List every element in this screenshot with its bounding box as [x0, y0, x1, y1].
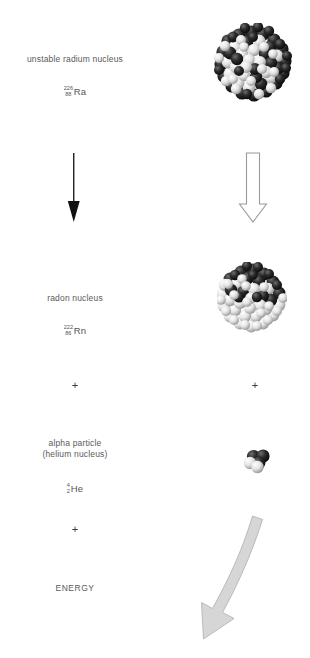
alpha-particle-label-line1: alpha particle [0, 438, 150, 449]
plus-sign-left-2: + [0, 524, 150, 535]
radon-element-symbol: Rn [74, 325, 87, 336]
helium-isotope-notation: 4 2 He [0, 473, 150, 494]
radon-label: radon nucleus [0, 293, 150, 304]
radon-atomic-number: 86 [65, 331, 71, 337]
open-block-down-arrow [232, 152, 274, 224]
helium-element-symbol: He [71, 483, 84, 494]
energy-release-arrow [196, 508, 276, 648]
radium-isotope-notation: 226 88 Ra [0, 76, 150, 97]
helium-atomic-number: 2 [67, 489, 70, 495]
plus-sign-right-1: + [215, 380, 295, 391]
radium-label: unstable radium nucleus [0, 54, 150, 65]
radium-element-symbol: Ra [74, 86, 87, 97]
radon-isotope-numbers: 222 86 [64, 325, 73, 336]
radium-atomic-number: 88 [65, 92, 71, 98]
alpha-decay-diagram: unstable radium nucleus 226 88 Ra [0, 0, 310, 658]
radon-isotope-notation: 222 86 Rn [0, 315, 150, 336]
radon-nucleus-illustration [217, 262, 287, 334]
radium-nucleus-illustration [214, 23, 292, 103]
plus-sign-left-1: + [0, 380, 150, 391]
energy-label: ENERGY [0, 583, 150, 593]
alpha-particle-label-line2: (helium nucleus) [0, 449, 150, 460]
black-down-arrow [62, 153, 86, 223]
alpha-particle-illustration [243, 448, 273, 476]
helium-isotope-numbers: 4 2 [67, 483, 70, 494]
radium-isotope-numbers: 226 88 [64, 86, 73, 97]
